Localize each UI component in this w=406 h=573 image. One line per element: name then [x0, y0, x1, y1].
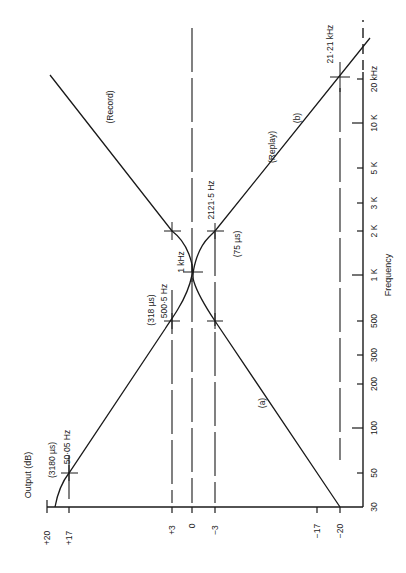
db-label-m17: −17	[312, 524, 322, 539]
db-label-m20: −20	[335, 524, 345, 539]
marker-50hz	[61, 465, 78, 481]
crosshair-markers	[61, 62, 350, 481]
freq-label-2k: 2 K	[369, 224, 379, 237]
y-axis-title: Output (dB)	[23, 452, 33, 499]
annotation-21khz: 21·21 kHz	[325, 25, 335, 64]
freq-label-200: 200	[369, 377, 379, 391]
freq-label-50: 50	[369, 468, 379, 478]
freq-label-5k: 5 K	[369, 161, 379, 174]
frequency-tick-labels: 30 50 100 200 300 500 1 K 2 K 3 K 5 K 10…	[369, 66, 379, 512]
label-record: (Record)	[105, 90, 115, 123]
freq-label-500: 500	[369, 314, 379, 328]
freq-label-30: 30	[369, 502, 379, 512]
freq-label-10k: 10 K	[369, 114, 379, 132]
db-label-p3: +3	[167, 525, 177, 535]
annotation-500hz: 500·5 Hz	[159, 284, 169, 319]
db-label-p17: +17	[64, 531, 74, 546]
annotation-2121hz: 2121·5 Hz	[206, 180, 216, 219]
db-label-p20: +20	[42, 531, 52, 546]
marker-500hz-replay	[207, 313, 223, 329]
freq-label-20k: 20 kHz	[369, 66, 379, 92]
x-axis-title: Frequency	[383, 253, 393, 296]
annotation-318us: (318 µs)	[146, 294, 156, 326]
db-label-m3: −3	[210, 525, 220, 535]
annotations: 50·05 Hz (3180 µs) 500·5 Hz (318 µs) 1 k…	[47, 25, 335, 478]
label-replay: (Replay)	[267, 131, 277, 163]
emphasis-curve-chart: +20 +17 +3 0 −3 −17 −20 30 50 100 200 30…	[0, 0, 406, 573]
db-label-zero: 0	[187, 523, 197, 528]
freq-label-3k: 3 K	[369, 196, 379, 209]
annotation-3180us: (3180 µs)	[47, 442, 57, 478]
annotation-50hz: 50·05 Hz	[62, 430, 72, 465]
frequency-ticks	[352, 79, 363, 473]
annotation-1khz: 1 kHz	[176, 251, 186, 273]
db-tick-labels: +20 +17 +3 0 −3 −17 −20	[42, 523, 345, 545]
freq-label-300: 300	[369, 348, 379, 362]
annotation-75us: (75 µs)	[232, 231, 242, 258]
freq-label-1k: 1 K	[369, 268, 379, 281]
label-a: (a)	[257, 398, 267, 409]
replay-curve	[193, 38, 370, 507]
freq-label-100: 100	[369, 421, 379, 435]
label-b: (b)	[292, 113, 302, 124]
